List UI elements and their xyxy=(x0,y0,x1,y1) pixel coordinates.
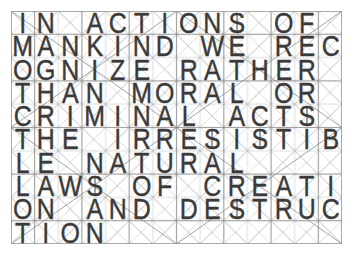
letter-c: C xyxy=(319,196,342,222)
letter-o: O xyxy=(58,219,82,245)
letter-n: N xyxy=(83,219,106,245)
letter-d: D xyxy=(177,196,200,222)
letterform-grid: INACTIONSOFMANKINDWERECOGNIZERATHERTHANM… xyxy=(11,11,342,244)
letter-u: U xyxy=(295,196,318,222)
letter-space xyxy=(295,219,318,245)
letter-space xyxy=(272,219,295,245)
letter-space xyxy=(106,219,129,245)
letter-space xyxy=(177,219,200,245)
letter-space xyxy=(200,219,224,245)
letter-z: Z xyxy=(106,56,129,82)
letter-d: D xyxy=(153,33,176,59)
letter-d: D xyxy=(130,196,153,222)
artwork-canvas: INACTIONSOFMANKINDWERECOGNIZERATHERTHANM… xyxy=(0,0,353,262)
letter-t: T xyxy=(249,196,272,222)
letter-space xyxy=(153,219,176,245)
letter-r: R xyxy=(272,196,295,222)
letter-n: N xyxy=(106,196,129,222)
artwork-plate: INACTIONSOFMANKINDWERECOGNIZERATHERTHANM… xyxy=(11,11,342,244)
letter-s-as-dollar: S xyxy=(225,196,248,222)
letter-t: T xyxy=(272,126,295,152)
letter-e: E xyxy=(200,196,224,222)
letter-space xyxy=(249,219,272,245)
letter-space xyxy=(130,219,153,245)
letter-t: T xyxy=(11,219,34,245)
letter-space xyxy=(319,56,342,82)
letter-space xyxy=(153,196,176,222)
letter-a: A xyxy=(106,149,129,175)
letter-space xyxy=(225,219,248,245)
letter-b: B xyxy=(319,126,342,152)
letter-r: R xyxy=(177,149,200,175)
letter-i: I xyxy=(295,126,318,152)
letter-c: C xyxy=(319,33,342,59)
letter-s-as-dollar: S xyxy=(249,126,272,152)
letter-space xyxy=(319,219,342,245)
letter-h: H xyxy=(249,56,272,82)
letter-e: E xyxy=(58,126,82,152)
letter-i: I xyxy=(35,219,58,245)
